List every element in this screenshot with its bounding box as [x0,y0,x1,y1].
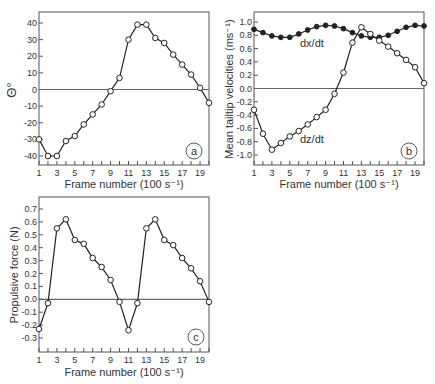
data-point [99,264,105,270]
data-point [314,24,319,29]
x-axis-title: Frame number (100 s⁻¹) [279,178,398,190]
x-tick-label: 5 [72,168,77,178]
data-point [269,34,274,39]
data-point [179,255,185,261]
data-point [54,226,60,232]
x-tick-label: 15 [159,355,169,365]
x-tick-label: 1 [36,355,41,365]
data-point [252,27,257,32]
data-point [341,70,347,76]
data-point [161,40,167,46]
panel-b-chart: 1.00.80.60.40.20.0-0.2-0.4-0.6-0.8-1.0 1… [223,12,427,190]
dx-dt-label: dx/dt [300,37,324,49]
data-point [197,278,203,284]
data-point [161,237,167,243]
data-point [296,32,301,37]
data-point [323,23,328,28]
data-point [117,299,123,305]
x-tick-label: 11 [124,168,133,178]
x-axis-ticks: 135791113151719 [36,348,209,365]
y-tick-label: 0 [32,85,37,95]
data-point [90,255,96,261]
data-point [412,64,418,70]
data-point [261,30,266,35]
data-point [126,327,132,333]
data-point [385,44,391,50]
x-axis-ticks: 135791113151719 [251,161,424,178]
x-tick-label: 11 [124,355,133,365]
y-tick-label: 0.0 [239,84,252,94]
data-point [314,114,320,120]
y-tick-label: 0.6 [239,44,252,54]
y-tick-label: -10 [24,101,37,111]
y-axis-title: Θ° [4,82,19,97]
data-point [108,88,114,94]
data-point [332,24,337,29]
data-point [206,100,212,106]
series-line [39,25,209,156]
y-tick-label: 0.6 [24,217,37,227]
data-point [144,226,150,232]
data-point [170,52,176,58]
data-point [72,133,78,139]
x-tick-label: 13 [356,168,366,178]
data-point [350,40,356,46]
y-tick-label: -40 [24,151,37,161]
y-tick-label: 30 [27,35,37,45]
data-point [359,25,365,31]
data-point [197,85,203,91]
y-tick-label: 0.2 [239,70,252,80]
data-point [359,34,364,39]
x-tick-label: 17 [177,168,187,178]
data-point [278,35,283,40]
y-tick-label: 0.1 [24,281,37,291]
y-tick-label: 10 [27,68,37,78]
x-tick-label: 13 [141,168,151,178]
x-axis-title: Frame number (100 s⁻¹) [64,178,183,190]
data-point [36,137,42,143]
x-tick-label: 5 [287,168,292,178]
x-tick-label: 3 [54,168,59,178]
data-point [63,138,69,144]
x-tick-label: 11 [339,168,348,178]
data-point [179,62,185,68]
x-tick-label: 5 [72,355,77,365]
data-point [135,300,141,306]
data-point [422,24,427,29]
data-point [368,31,374,37]
y-tick-label: 0.3 [24,256,37,266]
data-point [394,50,400,56]
x-tick-label: 7 [90,168,95,178]
data-point [287,35,292,40]
panel-label: c [193,331,199,343]
x-tick-label: 9 [108,168,113,178]
x-tick-label: 9 [323,168,328,178]
data-point [99,102,105,108]
y-tick-label: 0.8 [239,30,252,40]
y-tick-label: 1.0 [239,17,252,27]
y-axis-title: Propulsive force (N) [8,226,20,323]
data-point [341,26,346,31]
data-point [413,23,418,28]
data-point [332,91,338,97]
figure: 403020100-10-20-30-40 135791113151719 a … [0,0,435,384]
data-point [278,140,284,146]
data-point [287,134,293,140]
x-tick-label: 1 [36,168,41,178]
data-point [54,153,60,159]
x-axis-title: Frame number (100 s⁻¹) [64,366,183,378]
x-tick-label: 19 [410,168,420,178]
data-point [386,33,391,38]
data-point [260,131,266,137]
data-point [153,217,159,223]
y-tick-label: 0.4 [239,57,252,67]
data-point [45,153,51,159]
data-point [305,122,311,128]
panel-label: b [406,145,412,157]
data-point [395,29,400,34]
y-tick-label: -20 [24,118,37,128]
data-point [72,237,78,243]
data-point [135,22,141,28]
y-tick-label: 0.2 [24,269,37,279]
y-tick-label: 20 [27,51,37,61]
